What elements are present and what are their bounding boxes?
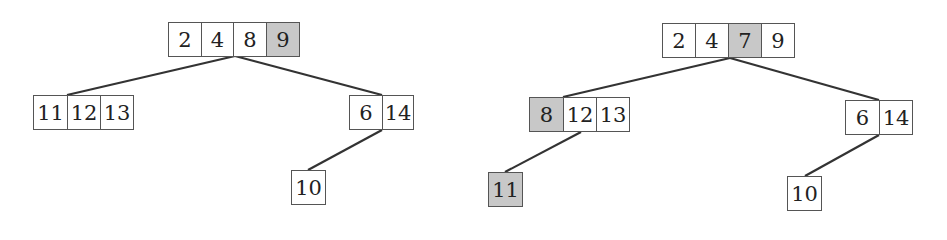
- key-cell: 14: [879, 100, 913, 135]
- key-cell: 11: [33, 95, 68, 130]
- key-cell: 2: [168, 22, 202, 57]
- left-tree-edge: [235, 56, 382, 95]
- key-cell: 10: [291, 170, 326, 205]
- right-tree-edge: [563, 58, 730, 97]
- right-tree-edge: [730, 58, 879, 100]
- key-cell: 10: [787, 176, 822, 211]
- right-tree-node-root: 2479: [662, 23, 795, 58]
- key-cell: 2: [662, 23, 696, 58]
- key-cell: 13: [596, 97, 630, 132]
- key-cell: 12: [67, 95, 101, 130]
- left-tree-node-child-b: 614: [349, 95, 414, 130]
- right-tree-node-child-a: 81213: [529, 97, 630, 132]
- right-tree-node-child-b: 614: [845, 100, 913, 135]
- highlighted-key-cell: 11: [488, 172, 523, 207]
- key-cell: 6: [845, 100, 880, 135]
- right-tree-edge: [505, 132, 581, 172]
- left-tree-node-child-a: 111213: [33, 95, 134, 130]
- highlighted-key-cell: 9: [266, 22, 300, 57]
- key-cell: 4: [201, 22, 234, 57]
- right-tree-node-grandchild-left: 11: [488, 172, 523, 207]
- left-tree-edge: [308, 130, 382, 170]
- key-cell: 9: [761, 23, 795, 58]
- key-cell: 4: [695, 23, 729, 58]
- highlighted-key-cell: 7: [728, 23, 762, 58]
- left-tree-node-grandchild: 10: [291, 170, 326, 205]
- highlighted-key-cell: 8: [529, 97, 564, 132]
- left-tree-node-root: 2489: [168, 22, 300, 57]
- left-tree-edge: [67, 56, 235, 95]
- key-cell: 13: [100, 95, 134, 130]
- right-tree-edge: [805, 135, 879, 176]
- key-cell: 8: [233, 22, 267, 57]
- key-cell: 14: [382, 95, 414, 130]
- key-cell: 6: [349, 95, 383, 130]
- right-tree-node-grandchild-right: 10: [787, 176, 822, 211]
- key-cell: 12: [563, 97, 597, 132]
